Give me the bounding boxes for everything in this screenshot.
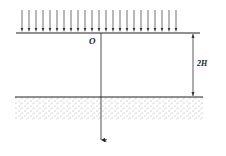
- load-arrowhead: [112, 28, 115, 32]
- load-arrowhead: [105, 28, 108, 32]
- load-arrowhead: [126, 28, 129, 32]
- load-arrowhead: [63, 28, 66, 32]
- load-arrowhead: [21, 28, 24, 32]
- load-arrowhead: [49, 28, 52, 32]
- load-arrowhead: [133, 28, 136, 32]
- load-arrowhead: [84, 28, 87, 32]
- load-arrowhead: [35, 28, 38, 32]
- load-arrowhead: [140, 28, 143, 32]
- soil-layer: [15, 97, 203, 120]
- load-arrowhead: [56, 28, 59, 32]
- load-arrowhead: [70, 28, 73, 32]
- load-arrowhead: [91, 28, 94, 32]
- diagram: O 2H z: [0, 0, 226, 156]
- distributed-load-arrows: [21, 10, 178, 32]
- dimension-arrow-top: [192, 34, 195, 38]
- load-arrowhead: [161, 28, 164, 32]
- z-axis-label: z: [103, 136, 107, 144]
- load-arrowhead: [77, 28, 80, 32]
- load-arrowhead: [42, 28, 45, 32]
- load-arrowhead: [98, 28, 101, 32]
- dimension-arrow-bottom: [192, 92, 195, 96]
- load-arrowhead: [28, 28, 31, 32]
- origin-label: O: [89, 36, 96, 46]
- load-arrowhead: [119, 28, 122, 32]
- load-arrowhead: [147, 28, 150, 32]
- dimension-label: 2H: [196, 59, 208, 68]
- load-arrowhead: [168, 28, 171, 32]
- load-arrowhead: [175, 28, 178, 32]
- load-arrowhead: [154, 28, 157, 32]
